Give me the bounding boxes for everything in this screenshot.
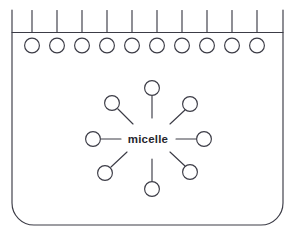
micelle-molecule-head [197, 132, 212, 147]
surface-molecule-6 [150, 11, 165, 53]
surface-molecule-head [175, 38, 190, 53]
surface-molecule-1 [25, 11, 40, 53]
micelle-molecule-ne [170, 97, 197, 124]
micelle-molecule-e [176, 132, 211, 147]
surface-molecule-head [200, 38, 215, 53]
surface-molecule-head [225, 38, 240, 53]
surface-molecule-2 [50, 11, 65, 53]
micelle-diagram-figure: micelle [0, 0, 294, 237]
micelle-molecule-head [86, 132, 101, 147]
micelle-molecule-head [145, 81, 160, 96]
surface-molecule-3 [75, 11, 90, 53]
micelle-molecule-head [145, 182, 160, 197]
micelle-molecule-w [86, 132, 121, 147]
micelle-molecule-head [183, 97, 198, 112]
surface-surfactant-layer [25, 11, 265, 53]
surface-molecule-head [75, 38, 90, 53]
micelle-molecule-head [105, 96, 120, 111]
surface-molecule-7 [175, 11, 190, 53]
micelle-molecule-tail [118, 109, 133, 124]
micelle-molecule-sw [98, 152, 127, 180]
surface-molecule-head [50, 38, 65, 53]
central-micelle: micelle [86, 81, 212, 197]
micelle-molecule-s [145, 159, 160, 196]
surface-molecule-head [150, 38, 165, 53]
micelle-molecule-tail [170, 152, 185, 166]
surface-molecule-head [250, 38, 265, 53]
surface-molecule-10 [250, 11, 265, 53]
surface-molecule-5 [125, 11, 140, 53]
surface-molecule-9 [225, 11, 240, 53]
surface-molecule-head [100, 38, 115, 53]
surface-molecule-head [25, 38, 40, 53]
micelle-molecule-se [170, 152, 197, 179]
micelle-molecule-tail [111, 152, 127, 167]
micelle-molecule-head [183, 165, 198, 180]
micelle-molecule-nw [105, 96, 133, 124]
diagram-canvas: micelle [0, 0, 294, 237]
micelle-molecule-n [145, 81, 160, 118]
micelle-molecule-head [98, 166, 113, 181]
surface-molecule-8 [200, 11, 215, 53]
surface-molecule-head [125, 38, 140, 53]
micelle-molecule-tail [170, 110, 185, 124]
surface-molecule-4 [100, 11, 115, 53]
micelle-label: micelle [128, 133, 168, 145]
